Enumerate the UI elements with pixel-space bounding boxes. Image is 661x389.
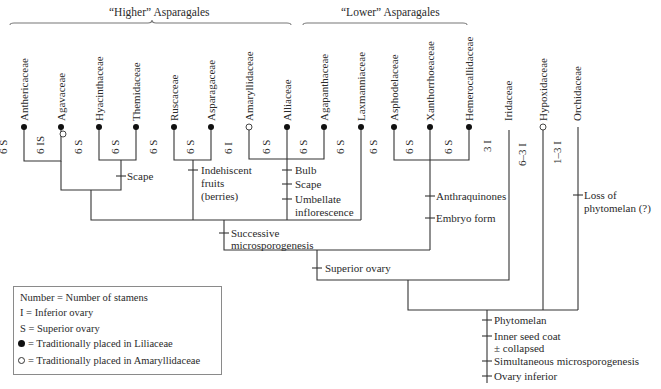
stamen-iridaceae: 3 I — [482, 140, 493, 152]
stamen-hemerocallidaceae: 6 S — [443, 140, 454, 154]
legend-row-superior: S = Superior ovary — [20, 323, 100, 334]
stamen-ruscaceae: 6 S — [148, 140, 159, 154]
open-circle-icon — [18, 357, 25, 364]
character-successive-1: Successive — [231, 227, 279, 239]
taxon-iridaceae: Iridaceae — [503, 81, 514, 121]
character-inner-seed-coat-1: Inner seed coat — [494, 330, 561, 342]
taxon-asparagaceae: Asparagaceae — [206, 60, 217, 121]
taxon-hypoxidaceae: Hypoxidaceae — [538, 58, 549, 121]
character-superior-ovary: Superior ovary — [325, 262, 391, 274]
character-indehiscent-3: (berries) — [201, 190, 238, 202]
stamen-asparagaceae: 6 S — [185, 140, 196, 154]
legend-box: Number = Number of stamens I = Inferior … — [13, 286, 222, 375]
character-scape: Scape — [127, 170, 153, 182]
character-umbellate-1: Umbellate — [295, 193, 341, 205]
taxon-orchidaceae: Orchidaceae — [572, 66, 583, 121]
stamen-hyacinthaceae: 6 S — [73, 140, 84, 154]
taxon-hyacinthaceae: Hyacinthaceae — [94, 56, 105, 121]
character-phytomelan: Phytomelan — [494, 314, 547, 326]
taxon-xanthorrhoeaceae: Xanthorrhoeaceae — [425, 41, 436, 121]
taxon-themidaceae: Themidaceae — [131, 62, 142, 121]
stamen-amaryllidaceae: 6 I — [223, 142, 234, 154]
character-loss-phytomelan-2: phytomelan (?) — [584, 202, 651, 214]
taxon-laxmanniaceae: Laxmanniaceae — [356, 52, 367, 121]
filled-circle-icon — [18, 340, 25, 347]
character-umbellate-2: inflorescence — [295, 206, 354, 218]
taxon-ruscaceae: Ruscaceae — [169, 75, 180, 121]
stamen-anthericaceae: 6 S — [0, 140, 9, 154]
character-indehiscent-1: Indehiscent — [201, 164, 252, 176]
character-loss-phytomelan-1: Loss of — [584, 189, 617, 201]
character-indehiscent-2: fruits — [201, 177, 224, 189]
group-title-lower: “Lower” Asparagales — [341, 6, 440, 18]
stamen-themidaceae: 6 S — [110, 140, 121, 154]
stamen-agavaceae: 6 IS — [35, 136, 46, 154]
lower-bracket — [303, 23, 467, 25]
legend-row-inferior: I = Inferior ovary — [20, 307, 93, 318]
stamen-alliaceae: 6 S — [261, 140, 272, 154]
character-ovary-inferior: Ovary inferior — [494, 370, 557, 382]
stamen-laxmanniaceae: 6 S — [335, 140, 346, 154]
character-simultaneous: Simultaneous microsporogenesis — [494, 355, 639, 367]
stamen-agapanthaceae: 6 S — [298, 140, 309, 154]
taxon-asphodelaceae: Asphodelaceae — [389, 54, 400, 121]
legend-row-amaryllidaceae: = Traditionally placed in Amaryllidaceae — [18, 355, 200, 366]
taxon-anthericaceae: Anthericaceae — [19, 58, 30, 121]
taxon-alliaceae: Alliaceae — [282, 79, 293, 121]
taxon-markers — [21, 124, 546, 137]
stamen-xanthorrhoeaceae: 6 S — [404, 140, 415, 154]
taxon-agapanthaceae: Agapanthaceae — [319, 54, 330, 121]
higher-bracket — [10, 20, 291, 25]
taxon-hemerocallidaceae: Hemerocallidaceae — [464, 37, 475, 121]
character-scape-2: Scape — [295, 178, 321, 190]
legend-row-liliaceae: = Traditionally placed in Liliaceae — [18, 338, 173, 349]
stamen-orchidaceae: 1–3 I — [552, 141, 563, 164]
character-inner-seed-coat-2: ± collapsed — [494, 342, 544, 354]
character-anthraquinones: Anthraquinones — [436, 190, 506, 202]
stamen-hypoxidaceae: 6–3 I — [517, 143, 528, 166]
character-embryo-form: Embryo form — [436, 212, 496, 224]
stamen-asphodelaceae: 6 S — [368, 140, 379, 154]
taxon-agavaceae: Agavaceae — [56, 73, 67, 121]
character-successive-2: microsporogenesis — [231, 239, 313, 251]
character-bulb: Bulb — [295, 164, 316, 176]
legend-row-number: Number = Number of stamens — [20, 292, 148, 303]
legend-liliaceae-text: = Traditionally placed in Liliaceae — [28, 338, 173, 349]
legend-amaryllidaceae-text: = Traditionally placed in Amaryllidaceae — [28, 355, 200, 366]
group-title-higher: “Higher” Asparagales — [109, 6, 210, 18]
taxon-amaryllidaceae: Amaryllidaceae — [244, 51, 255, 121]
